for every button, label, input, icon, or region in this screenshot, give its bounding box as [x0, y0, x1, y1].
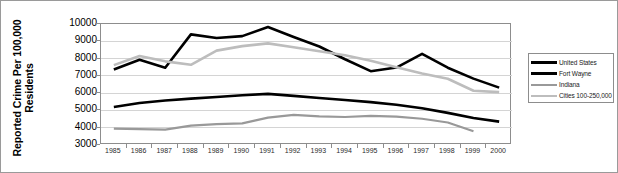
legend-item: Indiana: [531, 79, 611, 90]
x-axis-tick: [126, 144, 127, 148]
chart-figure: Reported Crime Per 100,000 Residents 300…: [0, 0, 618, 173]
y-axis-tick-label: 8000: [39, 53, 97, 63]
x-axis-tick: [357, 144, 358, 148]
y-axis-tick: [95, 40, 100, 41]
legend-label: Cities 100-250,000: [559, 92, 612, 99]
y-axis-tick-label: 9000: [39, 35, 97, 45]
x-axis-tick: [485, 144, 486, 148]
y-axis-tick: [95, 127, 100, 128]
x-axis-tick: [460, 144, 461, 148]
y-axis-tick-label: 4000: [39, 122, 97, 132]
legend-swatch-icon: [531, 72, 557, 75]
legend-swatch-icon: [531, 95, 557, 97]
y-axis-title-line-1: Reported Crime Per 100,000: [11, 19, 23, 156]
x-axis-tick: [408, 144, 409, 148]
y-axis-tick-label: 5000: [39, 104, 97, 114]
x-axis-tick-labels: 1985198619871988198919901991199219931994…: [100, 147, 511, 161]
plot-area: [100, 23, 511, 144]
x-axis-tick: [434, 144, 435, 148]
legend-item: Cities 100-250,000: [531, 90, 611, 101]
y-axis-tick-label: 6000: [39, 87, 97, 97]
x-axis-tick-label: 2000: [478, 147, 518, 155]
x-axis-tick: [177, 144, 178, 148]
series-line: [114, 115, 474, 131]
x-axis-tick: [306, 144, 307, 148]
x-axis-tick: [280, 144, 281, 148]
y-axis-tick-labels: 300040005000600070008000900010000: [37, 1, 97, 173]
x-axis-tick: [151, 144, 152, 148]
y-axis-tick: [95, 23, 100, 24]
x-axis-tick: [203, 144, 204, 148]
legend-swatch-icon: [531, 84, 557, 86]
y-axis-tick: [95, 144, 100, 145]
x-axis-tick: [228, 144, 229, 148]
y-axis-title-line-2: Residents: [23, 19, 35, 156]
legend-item: United States: [531, 57, 611, 68]
y-axis-tick-label: 3000: [39, 139, 97, 149]
data-lines: [101, 24, 512, 145]
legend-swatch-icon: [531, 61, 557, 64]
series-line: [114, 94, 499, 122]
y-axis-tick-label: 10000: [39, 18, 97, 28]
legend-label: Fort Wayne: [559, 70, 591, 77]
chart-legend: United StatesFort WayneIndianaCities 100…: [528, 53, 614, 103]
x-axis-tick: [383, 144, 384, 148]
y-axis-tick: [95, 75, 100, 76]
legend-label: Indiana: [559, 81, 580, 88]
y-axis-tick: [95, 109, 100, 110]
y-axis-tick-label: 7000: [39, 70, 97, 80]
y-axis-tick: [95, 58, 100, 59]
y-axis-tick: [95, 92, 100, 93]
legend-label: United States: [559, 59, 597, 66]
x-axis-tick: [331, 144, 332, 148]
x-axis-tick: [254, 144, 255, 148]
series-line: [114, 43, 499, 92]
legend-item: Fort Wayne: [531, 68, 611, 79]
